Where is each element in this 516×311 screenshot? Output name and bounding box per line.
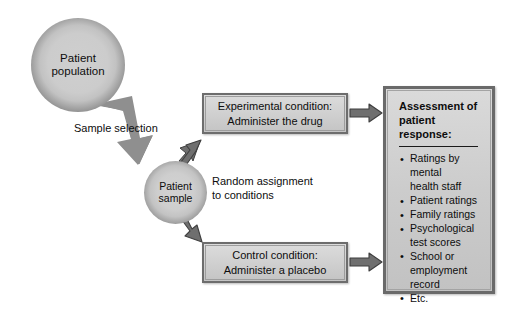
node-experimental-condition: Experimental condition: Administer the d… xyxy=(202,93,348,134)
patient-population-label: Patient population xyxy=(51,52,104,78)
assessment-item: School or employment record xyxy=(399,250,484,292)
node-assessment: Assessment of patient response: Ratings … xyxy=(383,86,495,294)
arrow-experimental-to-assessment xyxy=(350,104,382,122)
node-patient-population: Patient population xyxy=(31,18,125,112)
assessment-title-line2: patient response: xyxy=(399,113,484,141)
edge-label-random-assignment: Random assignment to conditions xyxy=(212,174,313,203)
assessment-title: Assessment of patient response: xyxy=(399,99,484,141)
assessment-item: Patient ratings xyxy=(399,194,484,208)
assessment-item: Ratings by mental health staff xyxy=(399,152,484,194)
patient-population-line2: population xyxy=(51,65,104,78)
assessment-item: Psychological test scores xyxy=(399,222,484,250)
patient-sample-line2: sample xyxy=(159,193,193,205)
assessment-item: Etc. xyxy=(399,292,484,306)
node-patient-sample: Patient sample xyxy=(144,161,207,224)
patient-sample-label: Patient sample xyxy=(159,181,193,205)
experimental-condition-line2: Administer the drug xyxy=(218,114,332,128)
patient-population-line1: Patient xyxy=(51,52,104,65)
experimental-condition-text: Experimental condition: Administer the d… xyxy=(218,99,332,128)
arrow-control-to-assessment xyxy=(350,253,382,271)
patient-sample-line1: Patient xyxy=(159,181,193,193)
assessment-title-line1: Assessment of xyxy=(399,99,484,113)
control-condition-line1: Control condition: xyxy=(224,248,327,262)
experimental-condition-line1: Experimental condition: xyxy=(218,99,332,113)
assessment-item: Family ratings xyxy=(399,208,484,222)
node-control-condition: Control condition: Administer a placebo xyxy=(202,242,348,283)
assessment-divider xyxy=(399,146,478,147)
control-condition-line2: Administer a placebo xyxy=(224,263,327,277)
diagram-canvas: Patient population Sample selection Pati… xyxy=(0,0,516,311)
edge-label-sample-selection: Sample selection xyxy=(74,121,158,135)
control-condition-text: Control condition: Administer a placebo xyxy=(224,248,327,277)
assessment-item-list: Ratings by mental health staff Patient r… xyxy=(395,152,484,305)
